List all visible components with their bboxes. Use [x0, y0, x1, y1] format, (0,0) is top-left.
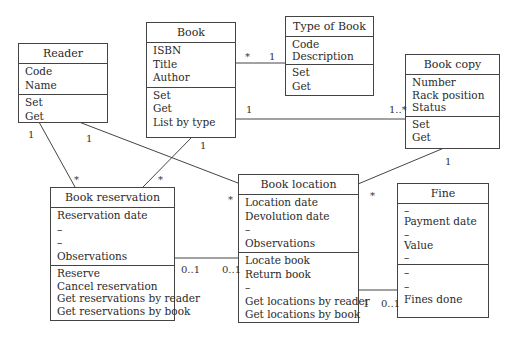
operation: Locate book [245, 254, 352, 268]
mult-res-loc-res: 0..1 [181, 264, 200, 276]
attribute: Value [404, 239, 482, 253]
attribute: – [57, 223, 168, 237]
operation: Return book [245, 268, 352, 282]
operation: Set [292, 66, 367, 80]
class-title: Book reservation [51, 188, 174, 208]
mult-reader-res-reader: 1 [28, 129, 34, 141]
mult-book-copy-book: 1 [246, 104, 252, 116]
class-type-of-book: Type of Book Code Description Set Get [285, 16, 374, 96]
attribute: Observations [57, 250, 168, 264]
class-book-reservation: Book reservation Reservation date – – Ob… [50, 187, 175, 321]
operation: Reserve [57, 267, 168, 280]
operation: Get locations by book [245, 308, 352, 322]
operation: – [404, 280, 482, 294]
mult-reader-res-res: * [74, 174, 79, 186]
attribute: ISBN [153, 44, 229, 58]
attribute: Number [412, 76, 493, 89]
attribute: Rack position [412, 89, 493, 102]
mult-book-res-book: 1 [200, 140, 206, 152]
class-title: Fine [398, 184, 488, 204]
attribute: Location date [245, 196, 352, 210]
operations: Set Get List by type [147, 88, 235, 132]
class-book-location: Book location Location date Devolution d… [238, 174, 359, 323]
attribute: Observations [245, 237, 352, 251]
operation: Set [412, 118, 493, 132]
operations: Set Get [406, 117, 499, 147]
class-title: Type of Book [286, 17, 373, 37]
attribute: – [404, 205, 482, 215]
mult-loc-fine-fine: 0..1 [381, 298, 400, 310]
mult-book-type-type: 1 [269, 51, 275, 63]
operation: Cancel reservation [57, 280, 168, 293]
attribute: Payment date [404, 215, 482, 229]
attribute: – [404, 252, 482, 262]
operation: Get reservations by book [57, 305, 168, 318]
mult-loc-fine-loc: 1 [363, 298, 369, 310]
operation: Get locations by reader [245, 295, 352, 309]
attributes: Location date Devolution date – Observat… [239, 195, 358, 253]
attribute: Code [292, 38, 367, 50]
attributes: Code Name [19, 64, 107, 95]
attribute: – [245, 223, 352, 237]
operation: Set [153, 89, 229, 103]
class-book-copy: Book copy Number Rack position Status Se… [405, 54, 500, 149]
attributes: Number Rack position Status [406, 75, 499, 117]
class-book: Book ISBN Title Author Set Get List by t… [146, 22, 236, 138]
class-title: Book [147, 23, 235, 43]
attribute: – [404, 229, 482, 239]
operations: Reserve Cancel reservation Get reservati… [51, 266, 174, 319]
operation: Get reservations by reader [57, 292, 168, 305]
operation: Get [25, 110, 101, 124]
class-fine: Fine – Payment date – Value – – – Fines … [397, 183, 489, 318]
operation: Get [412, 131, 493, 145]
class-title: Book location [239, 175, 358, 195]
attribute: Devolution date [245, 210, 352, 224]
attributes: ISBN Title Author [147, 43, 235, 88]
mult-reader-loc-reader: 1 [86, 133, 92, 145]
mult-copy-loc-copy: 1 [445, 156, 451, 168]
attributes: Reservation date – – Observations [51, 208, 174, 266]
assoc-copy-location [358, 148, 444, 184]
operations: Set Get [286, 65, 373, 95]
attribute: Name [25, 79, 101, 93]
operation: Get [153, 102, 229, 116]
attributes: Code Description [286, 37, 373, 65]
attribute: Title [153, 58, 229, 72]
operations: Set Get [19, 95, 107, 125]
operations: Locate book Return book – Get locations … [239, 253, 358, 324]
attribute: – [57, 236, 168, 250]
mult-book-res-res: * [158, 174, 163, 186]
mult-book-type-book: * [245, 51, 250, 63]
attribute: Reservation date [57, 209, 168, 223]
class-title: Reader [19, 44, 107, 64]
mult-reader-loc-loc: * [228, 194, 233, 206]
mult-book-copy-copy: 1..* [389, 104, 407, 116]
class-title: Book copy [406, 55, 499, 75]
attribute: Author [153, 71, 229, 85]
attributes: – Payment date – Value – [398, 204, 488, 265]
mult-copy-loc-loc: * [370, 190, 375, 202]
attribute: Code [25, 65, 101, 79]
class-reader: Reader Code Name Set Get [18, 43, 108, 123]
assoc-reader-reservation [39, 122, 75, 187]
operation: Fines done [404, 293, 482, 307]
operation: – [245, 281, 352, 295]
attribute: Status [412, 101, 493, 114]
mult-res-loc-loc: 0..1 [222, 264, 241, 276]
operations: – – Fines done [398, 265, 488, 309]
operation: Get [292, 80, 367, 94]
attribute: Description [292, 50, 367, 62]
operation: Set [25, 96, 101, 110]
operation: – [404, 266, 482, 280]
operation: List by type [153, 116, 229, 130]
